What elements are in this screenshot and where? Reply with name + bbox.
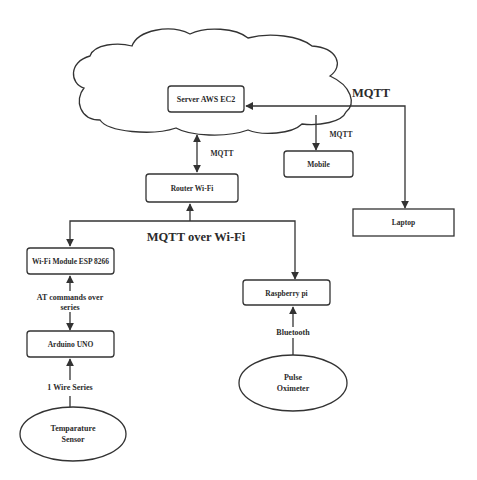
mobile-label: Mobile xyxy=(307,160,330,169)
mqtt-laptop-label: MQTT xyxy=(352,86,391,100)
server-label: Server AWS EC2 xyxy=(177,95,236,104)
raspberry-label: Raspberry pi xyxy=(265,289,307,298)
pulse-oximeter-node: Pulse Oximeter xyxy=(239,355,347,411)
at-commands-label-line2: series xyxy=(60,303,79,312)
router-label: Router Wi-Fi xyxy=(171,184,214,193)
raspberry-pi-node: Raspberry pi xyxy=(243,280,330,305)
one-wire-series-label: 1 Wire Series xyxy=(47,383,92,392)
temp-sensor-label-line2: Sensor xyxy=(61,435,85,444)
wifi-module-esp8266-node: Wi-Fi Module ESP 8266 xyxy=(27,248,114,274)
bluetooth-label: Bluetooth xyxy=(276,328,310,337)
arduino-uno-node: Arduino UNO xyxy=(27,331,114,357)
mqtt-router-label: MQTT xyxy=(211,149,234,158)
router-wifi-node: Router Wi-Fi xyxy=(146,174,238,202)
temperature-sensor-node: Temparature Sensor xyxy=(20,407,126,461)
laptop-node: Laptop xyxy=(353,209,454,236)
pulse-oximeter-label-line2: Oximeter xyxy=(277,384,310,393)
mobile-node: Mobile xyxy=(284,151,353,177)
mqtt-mobile-label: MQTT xyxy=(330,130,353,139)
laptop-label: Laptop xyxy=(392,218,415,227)
arduino-label-text: Arduino UNO xyxy=(48,340,94,349)
cloud-shape xyxy=(73,29,351,135)
wifi-module-label: Wi-Fi Module ESP 8266 xyxy=(32,257,109,266)
architecture-diagram: Server AWS EC2 MQTT MQTT Mobile Laptop M… xyxy=(0,0,477,480)
at-commands-label-line1: AT commands over xyxy=(37,293,104,302)
pulse-oximeter-label-line1: Pulse xyxy=(284,373,303,382)
temp-sensor-label-line1: Temparature xyxy=(51,424,96,433)
server-aws-ec2-node: Server AWS EC2 xyxy=(168,86,244,112)
mqtt-over-wifi-label: MQTT over Wi-Fi xyxy=(147,230,246,244)
